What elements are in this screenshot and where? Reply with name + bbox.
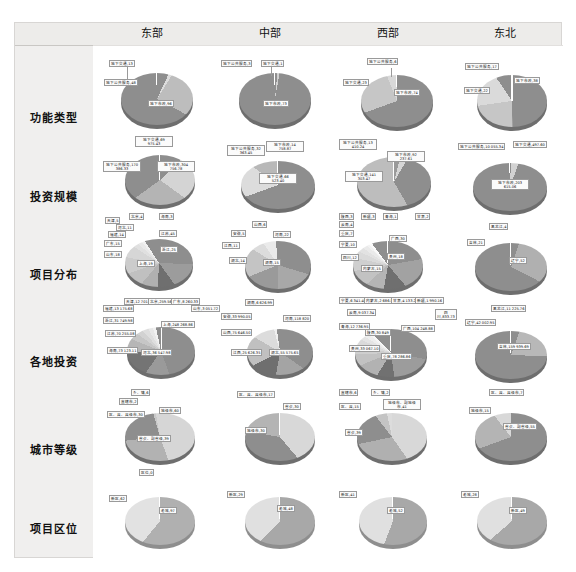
slice-label: 新区,41: [339, 491, 357, 498]
slice-label: 河南,22: [273, 231, 291, 238]
slice-label: 江西,11: [222, 242, 240, 249]
pie-chart-function-type-east: 地下交通,13 地下公共服务,48 地下市政,96: [103, 57, 221, 131]
slice-label: 湖北,55 575.65: [269, 349, 300, 356]
slice-label: 地下市政,92 237.61: [387, 151, 425, 162]
slice-label: 新疆,3: [361, 213, 376, 220]
slice-label: 湖南,15: [263, 259, 281, 266]
slice-label: 区、县,15: [339, 403, 361, 410]
slice-label: 甘肃,2: [415, 213, 430, 220]
slice-label: 地下市政,304 756.78: [157, 161, 195, 172]
pie-chart-city-rank-northeast: 区、县、县级市,7 地级市,15 省会、副省级,55: [457, 385, 563, 467]
slice-label: 重庆,7: [339, 230, 354, 237]
slice-label: 老城,97: [159, 507, 177, 514]
slice-label: 地下交通,66 523.40: [259, 173, 297, 184]
slice-label: 江西,25 626.35: [231, 349, 262, 356]
slice-label: 地下公共服务,13 410.24: [339, 139, 377, 150]
slice-label: 区、县、县级市,7: [489, 389, 524, 396]
row-label-project-distribution: 项目分布: [15, 266, 93, 282]
slice-label: 地级市,60: [159, 407, 181, 414]
pie-chart-project-distribution-northeast: 黑龙江,4 吉林,21 辽宁,52: [457, 213, 563, 297]
pie-chart-project-location-northeast: 老城,28 新区,49: [457, 469, 563, 551]
slice-label: 新区,49: [509, 507, 527, 514]
slice-label: 福建,13 175.68: [103, 305, 134, 312]
slice-label: 省会,30: [283, 403, 301, 410]
slice-label: 地下市政,73: [263, 100, 289, 107]
slice-label: 海南,73 123.11: [107, 347, 138, 354]
slice-label: 老城,48: [277, 505, 295, 512]
pie-chart-function-type-northeast: 地下公共服务,17 地下交通,22 地下市政,38: [457, 57, 563, 131]
slice-label: 山西,75 646.50: [221, 329, 252, 336]
slice-label: 贵州,18: [387, 253, 405, 260]
pie-chart-regional-investment-west: 宁夏,6 341.40 内蒙古,2 686.51 甘肃,4 133.22 新疆,…: [339, 297, 457, 383]
pie-chart-regional-investment-east: 天津,12 701.47 北京,259.56 广东,8 260.33 山东,3 …: [103, 297, 221, 383]
pie-chart-investment-scale-east: 地下交通,69 975.43 地下公共服务,170 386.33 地下市政,30…: [103, 135, 221, 213]
pie-chart-project-distribution-east: 天津,5 北京,4 海南,3 河北,11 福建,14 广东,15 山东,18 上…: [103, 213, 221, 297]
slice-label: 地下交通,23: [343, 79, 369, 86]
slice-label: 江苏,45: [159, 230, 177, 237]
slice-label: 区、县、县级市,17: [237, 391, 275, 398]
slice-label: 地下公共服务,3: [221, 60, 252, 67]
pie-chart-investment-scale-northeast: 地下公共服务,10 055.34 地下交通,497.60 地下市政,203 61…: [457, 135, 563, 213]
slice-label: 地下市政,38: [514, 77, 540, 84]
slice-label: 陕西,30 849: [365, 329, 391, 336]
slice-label: 地下交通,141 303.47: [345, 171, 383, 182]
row-label-investment-scale: 投资规模: [15, 188, 93, 204]
slice-label: 老城,28: [461, 491, 479, 498]
slice-label: 辽宁,52: [509, 257, 527, 264]
slice-label: 上海,19: [137, 260, 155, 267]
slice-label: 浙江,25: [160, 246, 178, 253]
slice-label: 直辖市,6: [339, 389, 358, 396]
pie-chart-regional-investment-northeast: 黑龙江,11 225.76 辽宁,42 002.95 吉林,159 939.69: [457, 297, 563, 383]
slice-label: 区位,0: [139, 469, 154, 476]
column-header-central: 中部: [211, 25, 329, 43]
slice-label: 内蒙古,15: [361, 265, 383, 272]
slice-label: 浙江,31 749.98: [103, 317, 134, 324]
column-header-east: 东部: [93, 25, 211, 43]
slice-label: 山西,6: [252, 221, 267, 228]
pie-chart-investment-scale-central: 地下公共服务,32 363.45 地下市政,14 758.87 地下交通,66 …: [221, 135, 339, 213]
slice-label: 山东,18: [104, 251, 122, 258]
slice-label: 地下公共服务,17: [465, 63, 499, 70]
slice-label: 地下公共服务,170 386.33: [103, 161, 141, 172]
slice-label: 河南,118 820: [283, 315, 311, 322]
slice-label: 地下公共服务,6: [367, 58, 398, 65]
slice-label: 地下交通,1: [261, 60, 284, 67]
slice-label: 省会、副省级,55: [503, 423, 537, 430]
column-header-west: 西部: [329, 25, 447, 43]
pie-chart-project-location-central: 新区,29 老城,48: [221, 469, 339, 551]
slice-label: 地下市政,14 758.87: [266, 141, 304, 152]
slice-label: 新疆,1 990.16: [415, 297, 444, 304]
slice-label: 上海,248 268.86: [161, 321, 195, 328]
pie-chart-function-type-west: 地下公共服务,6 地下交通,23 地下市政,74: [339, 57, 457, 131]
row-label-regional-investment: 各地投资: [15, 353, 93, 369]
pie-chart-project-location-west: 新区,41 老城,52: [339, 469, 457, 551]
slice-label: 云南,9 037.34: [347, 309, 376, 316]
pie-chart-function-type-central: 地下公共服务,3 地下交通,1 地下市政,73: [221, 57, 339, 131]
slice-label: 地下公共服务,10 055.34: [458, 143, 505, 150]
slice-label: 河北,36 547.98: [141, 349, 172, 356]
slice-label: 地级市、副地级市,41: [383, 399, 421, 410]
slice-label: 广西,104 248.88: [401, 325, 435, 332]
slice-label: 四川,12: [341, 254, 359, 261]
slice-label: 新区,62: [109, 495, 127, 502]
slice-label: 云南,4: [339, 221, 354, 228]
slice-label: 新区,29: [227, 491, 245, 498]
slice-label: 地下公共服务,48: [104, 79, 138, 86]
slice-label: 吉林,21: [467, 239, 485, 246]
slice-label: 乡、镇,2: [371, 389, 390, 396]
slice-label: 乡、镇,6: [131, 389, 150, 396]
slice-label: 安徽,33 990.05: [221, 313, 252, 320]
slice-label: 省会,39: [345, 429, 363, 436]
pie-chart-project-location-east: 区位,0 新区,62 老城,97: [103, 469, 221, 551]
slice-label: 直辖市,2: [119, 398, 138, 405]
slice-label: 辽宁,42 002.95: [465, 319, 496, 326]
slice-label: 黑龙江,11 225.76: [491, 305, 526, 312]
slice-label: 地下市政,203 615.06: [491, 179, 529, 190]
slice-label: 吉林,159 939.69: [497, 343, 531, 350]
pie-chart-project-distribution-west: 陕西,3 新疆,3 青海,1 甘肃,2 云南,4 重庆,7 宁夏,10 四川,1…: [339, 213, 457, 297]
slice-label: 湖北,14: [229, 257, 247, 264]
slice-label: 宁夏,10: [339, 241, 357, 248]
slice-label: 省会、副省级,39: [137, 435, 171, 442]
slice-label: 地级市,15: [469, 407, 491, 414]
slice-label: 福建,14: [108, 231, 126, 238]
